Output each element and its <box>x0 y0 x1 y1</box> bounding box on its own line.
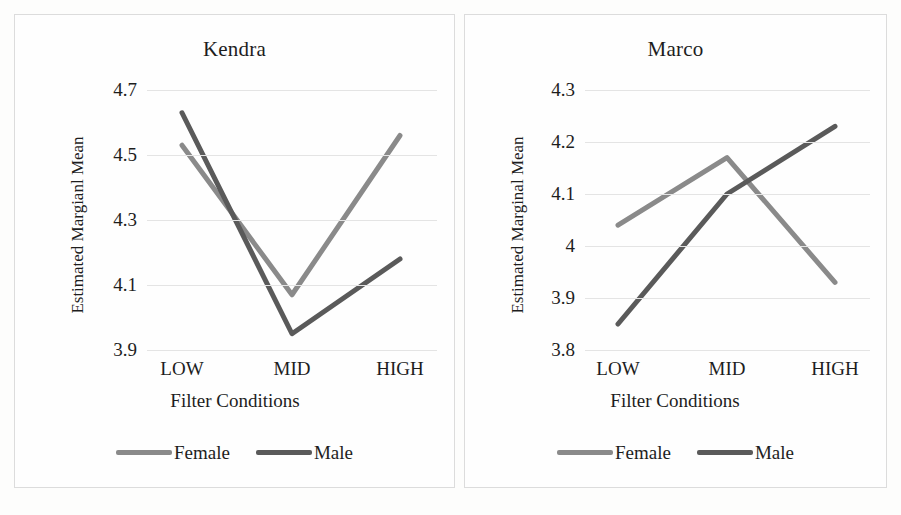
gridline <box>585 246 870 247</box>
legend-entry-female[interactable]: Female <box>116 443 230 462</box>
x-axis-ticks-marco: LOW MID HIGH <box>585 358 870 388</box>
y-tick-label: 3.8 <box>551 339 575 361</box>
y-tick-label: 4.7 <box>113 79 137 101</box>
panel-kendra: Kendra Estimated Margianl Mean 4.7 4.5 4… <box>14 14 455 488</box>
gridline <box>147 155 437 156</box>
legend-marco: Female Male <box>465 443 886 462</box>
legend-swatch-female <box>116 450 172 455</box>
gridline <box>147 90 437 91</box>
series-line-female <box>182 136 400 295</box>
y-tick-label: 4 <box>566 235 576 257</box>
legend-label-male: Male <box>314 443 353 462</box>
series-line-female <box>618 158 835 283</box>
legend-label-female: Female <box>174 443 230 462</box>
legend-swatch-male <box>697 450 753 455</box>
y-tick-label: 4.3 <box>113 209 137 231</box>
y-tick-label: 3.9 <box>113 339 137 361</box>
legend-label-male: Male <box>755 443 794 462</box>
gridline <box>147 220 437 221</box>
x-tick-label: HIGH <box>811 358 859 380</box>
x-tick-label: LOW <box>596 358 639 380</box>
gridline <box>147 285 437 286</box>
y-tick-label: 4.2 <box>551 131 575 153</box>
gridline <box>585 90 870 91</box>
y-axis-ticks-kendra: 4.7 4.5 4.3 4.1 3.9 <box>75 15 137 489</box>
interaction-plot-figure: Kendra Estimated Margianl Mean 4.7 4.5 4… <box>0 0 901 515</box>
legend-label-female: Female <box>615 443 671 462</box>
y-tick-label: 4.1 <box>551 183 575 205</box>
y-tick-label: 4.3 <box>551 79 575 101</box>
plot-area-kendra <box>147 90 437 350</box>
gridline <box>585 142 870 143</box>
x-tick-label: HIGH <box>376 358 424 380</box>
legend-swatch-female <box>557 450 613 455</box>
gridline <box>585 350 870 351</box>
x-tick-label: LOW <box>160 358 203 380</box>
x-axis-label-marco: Filter Conditions <box>475 390 875 412</box>
x-tick-label: MID <box>709 358 746 380</box>
y-tick-label: 3.9 <box>551 287 575 309</box>
y-tick-label: 4.5 <box>113 144 137 166</box>
gridline <box>147 350 437 351</box>
y-axis-ticks-marco: 4.3 4.2 4.1 4 3.9 3.8 <box>513 15 575 489</box>
legend-swatch-male <box>256 450 312 455</box>
x-tick-label: MID <box>274 358 311 380</box>
legend-kendra: Female Male <box>15 443 454 462</box>
gridline <box>585 194 870 195</box>
x-axis-label-kendra: Filter Conditions <box>35 390 435 412</box>
series-lines-marco <box>585 90 870 352</box>
plot-area-marco <box>585 90 870 350</box>
legend-entry-male[interactable]: Male <box>697 443 794 462</box>
legend-entry-male[interactable]: Male <box>256 443 353 462</box>
panel-marco: Marco Estimated Marginal Mean 4.3 4.2 4.… <box>464 14 887 488</box>
series-line-male <box>182 113 400 334</box>
series-lines-kendra <box>147 90 437 352</box>
x-axis-ticks-kendra: LOW MID HIGH <box>147 358 437 388</box>
gridline <box>585 298 870 299</box>
legend-entry-female[interactable]: Female <box>557 443 671 462</box>
y-tick-label: 4.1 <box>113 274 137 296</box>
